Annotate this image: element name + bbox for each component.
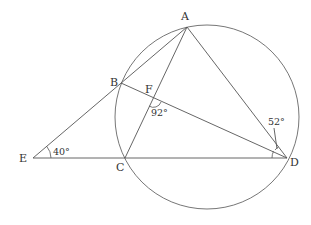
angle-pointer-D [274, 128, 277, 149]
segment-AC [125, 27, 187, 158]
angle-arc-D-lower [272, 151, 274, 158]
angle-arc-E [47, 146, 51, 158]
label-B: B [110, 76, 118, 89]
geometry-diagram: A B C D E F 40° 92° 52° [0, 0, 311, 225]
segment-EA [33, 27, 187, 158]
label-A: A [180, 10, 190, 23]
angle-label-F: 92° [151, 107, 168, 118]
segment-AD [187, 27, 287, 158]
label-D: D [290, 156, 299, 169]
angle-label-D: 52° [268, 116, 285, 127]
angle-label-E: 40° [53, 146, 70, 157]
label-E: E [19, 152, 27, 165]
label-C: C [116, 161, 124, 174]
label-F: F [145, 83, 153, 96]
